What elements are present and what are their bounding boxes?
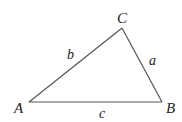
side-b-label: b xyxy=(67,47,74,62)
vertex-c-label: C xyxy=(117,10,128,26)
triangle-diagram: A B C a b c xyxy=(0,0,182,122)
side-c-label: c xyxy=(99,106,106,121)
side-a-label: a xyxy=(149,53,156,68)
vertex-b-label: B xyxy=(166,100,175,116)
vertex-a-label: A xyxy=(13,100,24,116)
side-a-line xyxy=(122,28,162,102)
side-b-line xyxy=(29,28,122,102)
